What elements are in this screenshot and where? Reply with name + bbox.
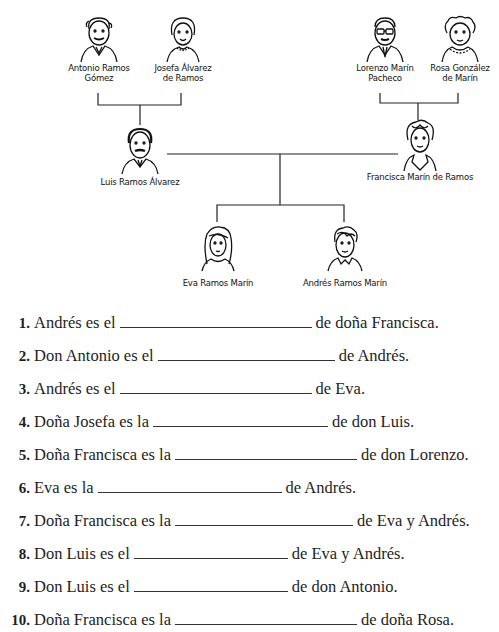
exercise-2: 2.Don Antonio es elde Andrés. — [0, 345, 409, 365]
exercise-number: 8. — [0, 546, 30, 563]
exercise-prompt-end: de don Antonio. — [292, 577, 398, 596]
exercise-number: 2. — [0, 348, 30, 365]
person-name: Luis Ramos Álvarez — [90, 177, 190, 187]
exercise-prompt-end: de doña Francisca. — [316, 313, 439, 332]
person-name: Josefa Álvarez — [142, 63, 224, 73]
exercise-prompt-end: de Eva. — [316, 379, 365, 398]
exercise-number: 1. — [0, 315, 30, 332]
person-andres-ramos-marin: Andrés Ramos Marín — [300, 224, 390, 288]
exercise-number: 5. — [0, 447, 30, 464]
person-rosa-gonzalez-de-marin: Rosa González de Marín — [420, 15, 499, 83]
answer-blank[interactable] — [175, 444, 357, 460]
exercise-3: 3.Andrés es elde Eva. — [0, 378, 365, 398]
exercise-10: 10.Doña Francisca es lade doña Rosa. — [0, 609, 454, 629]
portrait-father-mustache-icon — [118, 125, 162, 175]
portrait-daughter-long-hair-icon — [198, 224, 238, 272]
exercise-prompt-end: de Andrés. — [339, 346, 410, 365]
exercise-5: 5.Doña Francisca es lade don Lorenzo. — [0, 444, 469, 464]
exercise-prompt-end: de Eva y Andrés. — [292, 544, 405, 563]
answer-blank[interactable] — [134, 576, 288, 592]
exercise-prompt-start: Eva es la — [34, 478, 94, 497]
exercise-number: 4. — [0, 414, 30, 431]
person-name: Antonio Ramos — [55, 63, 143, 73]
exercise-prompt-start: Doña Josefa es la — [34, 412, 149, 431]
answer-blank[interactable] — [175, 510, 353, 526]
portrait-mother-icon — [398, 118, 442, 172]
person-name: Gómez — [55, 73, 143, 83]
portrait-grandfather-glasses-icon — [363, 15, 407, 63]
answer-blank[interactable] — [134, 543, 288, 559]
answer-blank[interactable] — [175, 609, 357, 625]
person-name: de Ramos — [142, 73, 224, 83]
exercise-prompt-end: de don Lorenzo. — [361, 445, 469, 464]
person-name: Francisca Marín de Ramos — [360, 172, 480, 182]
person-name: Andrés Ramos Marín — [300, 278, 390, 288]
exercise-prompt-end: de Andrés. — [286, 478, 357, 497]
answer-blank[interactable] — [98, 477, 282, 493]
exercise-prompt-start: Don Luis es el — [34, 544, 130, 563]
exercise-9: 9.Don Luis es elde don Antonio. — [0, 576, 398, 596]
answer-blank[interactable] — [120, 312, 312, 328]
exercise-number: 9. — [0, 579, 30, 596]
exercise-prompt-end: de doña Rosa. — [361, 610, 454, 629]
person-lorenzo-marin-pacheco: Lorenzo Marín Pacheco — [345, 15, 425, 83]
exercise-8: 8.Don Luis es elde Eva y Andrés. — [0, 543, 405, 563]
portrait-son-icon — [325, 224, 365, 272]
exercise-number: 10. — [0, 612, 30, 629]
answer-blank[interactable] — [153, 411, 328, 427]
person-name: de Marín — [420, 73, 499, 83]
person-eva-ramos-marin: Eva Ramos Marín — [175, 224, 261, 288]
exercise-number: 6. — [0, 480, 30, 497]
answer-blank[interactable] — [158, 345, 335, 361]
exercise-6: 6.Eva es lade Andrés. — [0, 477, 356, 497]
portrait-grandmother-icon — [161, 15, 205, 63]
exercise-1: 1.Andrés es elde doña Francisca. — [0, 312, 439, 332]
exercise-prompt-start: Doña Francisca es la — [34, 610, 171, 629]
person-name: Eva Ramos Marín — [175, 278, 261, 288]
exercise-prompt-start: Don Luis es el — [34, 577, 130, 596]
exercise-number: 7. — [0, 513, 30, 530]
portrait-grandmother-curly-icon — [438, 15, 482, 63]
exercise-prompt-start: Doña Francisca es la — [34, 511, 171, 530]
person-name: Rosa González — [420, 63, 499, 73]
answer-blank[interactable] — [120, 378, 312, 394]
exercise-prompt-start: Doña Francisca es la — [34, 445, 171, 464]
exercise-7: 7.Doña Francisca es lade Eva y Andrés. — [0, 510, 470, 530]
person-luis-ramos-alvarez: Luis Ramos Álvarez — [90, 125, 190, 187]
exercise-prompt-start: Andrés es el — [34, 313, 116, 332]
person-josefa-alvarez-de-ramos: Josefa Álvarez de Ramos — [142, 15, 224, 83]
portrait-grandfather-icon — [77, 15, 121, 63]
family-tree: Antonio Ramos Gómez Josefa Álvarez de Ra… — [0, 0, 499, 300]
exercise-prompt-end: de Eva y Andrés. — [357, 511, 470, 530]
exercise-prompt-start: Don Antonio es el — [34, 346, 154, 365]
person-name: Pacheco — [345, 73, 425, 83]
person-francisca-marin-de-ramos: Francisca Marín de Ramos — [360, 118, 480, 182]
exercise-prompt-start: Andrés es el — [34, 379, 116, 398]
exercise-number: 3. — [0, 381, 30, 398]
exercise-prompt-end: de don Luis. — [332, 412, 414, 431]
person-name: Lorenzo Marín — [345, 63, 425, 73]
person-antonio-ramos-gomez: Antonio Ramos Gómez — [55, 15, 143, 83]
exercise-4: 4.Doña Josefa es lade don Luis. — [0, 411, 414, 431]
